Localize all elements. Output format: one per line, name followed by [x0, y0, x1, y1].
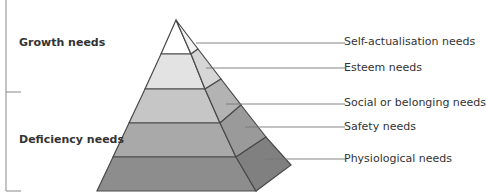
growth-needs-label: Growth needs: [19, 36, 105, 49]
level-label-social: Social or belonging needs: [344, 96, 486, 109]
level-label-self-actualisation: Self-actualisation needs: [344, 35, 475, 48]
level-label-physiological: Physiological needs: [344, 152, 452, 165]
group-bracket: [6, 0, 21, 191]
level-3-front: [129, 89, 220, 123]
level-label-safety: Safety needs: [344, 120, 416, 133]
level-label-esteem: Esteem needs: [344, 61, 422, 74]
level-4-front: [113, 123, 236, 157]
deficiency-needs-label: Deficiency needs: [19, 133, 124, 146]
level-5-front: [97, 157, 256, 191]
